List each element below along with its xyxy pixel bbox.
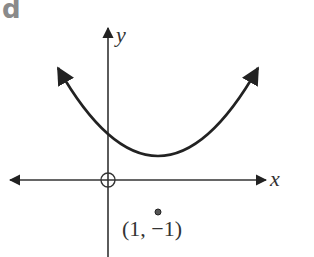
vertex-point	[155, 209, 161, 215]
parabola-curve	[58, 68, 258, 156]
y-axis-label: y	[114, 22, 126, 47]
parabola-graph: y x (1, −1)	[0, 0, 314, 257]
vertex-label: (1, −1)	[122, 216, 182, 241]
x-axis-label: x	[269, 166, 280, 191]
